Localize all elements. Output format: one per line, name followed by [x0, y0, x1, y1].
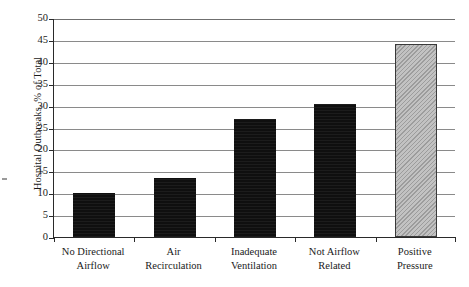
bar-0 — [73, 193, 115, 237]
y-axis-label-10: 10 — [8, 188, 48, 199]
x-axis-label-line1: Air — [167, 246, 181, 257]
bar-3 — [314, 104, 356, 237]
y-axis-label-40: 40 — [8, 57, 48, 68]
y-axis-label-20: 20 — [8, 144, 48, 155]
y-axis-label-30: 30 — [8, 101, 48, 112]
y-axis-label-0: 0 — [8, 232, 48, 243]
x-tick-4 — [376, 237, 377, 242]
y-axis-label-25: 25 — [8, 123, 48, 134]
bar-1 — [154, 178, 196, 237]
bar-2 — [234, 119, 276, 237]
x-axis-label-1: AirRecirculation — [133, 245, 213, 272]
plot-area — [53, 19, 455, 238]
x-axis-label-0: No DirectionalAirflow — [53, 245, 133, 272]
x-axis-label-3: Not AirflowRelated — [294, 245, 374, 272]
bar-4 — [395, 44, 437, 237]
y-axis-label-45: 45 — [8, 35, 48, 46]
x-axis-label-line2: Related — [294, 259, 374, 273]
x-axis-label-line2: Ventilation — [214, 259, 294, 273]
y-axis-label-5: 5 — [8, 210, 48, 221]
x-axis-label-line2: Recirculation — [133, 259, 213, 273]
x-axis-label-line1: Inadequate — [231, 246, 277, 257]
y-axis-label-15: 15 — [8, 166, 48, 177]
x-axis-label-line2: Pressure — [375, 259, 455, 273]
x-axis-label-line2: Airflow — [53, 259, 133, 273]
x-axis-label-2: InadequateVentilation — [214, 245, 294, 272]
y-axis-label-50: 50 — [8, 13, 48, 24]
x-tick-0 — [54, 237, 55, 242]
bar-chart: Hospital Outbreaks, % of Total 504540353… — [0, 0, 469, 287]
x-tick-3 — [295, 237, 296, 242]
bars-group — [54, 19, 455, 237]
x-axis-label-line1: Not Airflow — [309, 246, 360, 257]
x-axis-label-line1: No Directional — [62, 246, 125, 257]
x-axis-labels-group: No DirectionalAirflowAirRecirculationIna… — [53, 245, 455, 285]
scan-artifact — [2, 178, 7, 180]
y-axis-label-35: 35 — [8, 79, 48, 90]
x-tick-5 — [455, 237, 456, 242]
x-tick-2 — [215, 237, 216, 242]
x-axis-label-line1: Positive — [398, 246, 432, 257]
x-tick-1 — [134, 237, 135, 242]
x-axis-label-4: PositivePressure — [375, 245, 455, 272]
